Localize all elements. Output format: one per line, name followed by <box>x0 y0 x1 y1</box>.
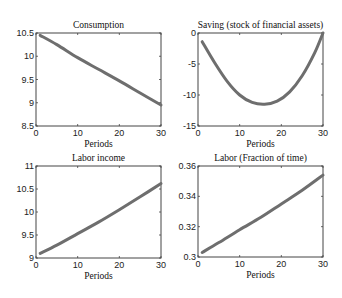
y-tick-label: 8.5 <box>21 121 34 131</box>
x-axis-label: Periods <box>246 139 275 149</box>
y-tick-label: 11 <box>25 161 34 171</box>
y-tick-label: 9 <box>29 98 34 108</box>
x-axis-label: Periods <box>246 270 275 280</box>
y-tick-label: 0 <box>191 28 196 38</box>
subplot-3: 010203099.51010.511Labor incomePeriods <box>16 153 166 281</box>
data-series-line <box>202 175 323 252</box>
axes-box <box>36 166 161 258</box>
subplot-title: Saving (stock of financial assets) <box>198 20 324 31</box>
x-tick-label: 30 <box>318 259 328 269</box>
x-tick-label: 0 <box>195 128 200 138</box>
subplot-4: 01020300.30.320.340.36Labor (Fraction of… <box>178 153 328 280</box>
x-tick-label: 0 <box>33 260 38 270</box>
subplot-1: 01020308.599.51010.5ConsumptionPeriods <box>16 20 166 149</box>
y-tick-label: 9.5 <box>21 75 34 85</box>
y-tick-label: 10.5 <box>16 184 34 194</box>
x-tick-label: 20 <box>276 128 286 138</box>
y-tick-label: 9.5 <box>21 230 34 240</box>
subplot-2: 0102030-15-10-50Saving (stock of financi… <box>183 20 328 149</box>
y-tick-label: 0.34 <box>178 191 196 201</box>
data-series-line <box>40 183 161 253</box>
axes-box <box>198 33 323 126</box>
y-tick-label: 0.36 <box>178 161 196 171</box>
y-tick-label: -10 <box>183 90 196 100</box>
x-tick-label: 30 <box>318 128 328 138</box>
x-tick-label: 20 <box>114 260 124 270</box>
data-series-line <box>202 33 323 104</box>
x-tick-label: 10 <box>235 259 245 269</box>
data-series-line <box>40 35 161 105</box>
y-tick-label: 0.3 <box>183 252 196 262</box>
y-tick-label: 10 <box>24 51 34 61</box>
figure: 01020308.599.51010.5ConsumptionPeriods01… <box>0 0 342 298</box>
subplot-title: Labor (Fraction of time) <box>214 153 307 164</box>
x-tick-label: 30 <box>156 260 166 270</box>
subplot-title: Labor income <box>72 153 125 163</box>
y-tick-label: -15 <box>183 121 196 131</box>
x-tick-label: 10 <box>235 128 245 138</box>
y-tick-label: -5 <box>188 59 196 69</box>
x-tick-label: 20 <box>114 128 124 138</box>
x-tick-label: 20 <box>276 259 286 269</box>
x-axis-label: Periods <box>84 271 113 281</box>
x-tick-label: 0 <box>195 259 200 269</box>
y-tick-label: 9 <box>29 253 34 263</box>
x-tick-label: 0 <box>33 128 38 138</box>
x-tick-label: 10 <box>73 260 83 270</box>
y-tick-label: 0.32 <box>178 222 196 232</box>
axes-box <box>36 33 161 126</box>
x-tick-label: 10 <box>73 128 83 138</box>
subplot-title: Consumption <box>73 20 124 30</box>
x-axis-label: Periods <box>84 139 113 149</box>
x-tick-label: 30 <box>156 128 166 138</box>
y-tick-label: 10 <box>24 207 34 217</box>
y-tick-label: 10.5 <box>16 28 34 38</box>
